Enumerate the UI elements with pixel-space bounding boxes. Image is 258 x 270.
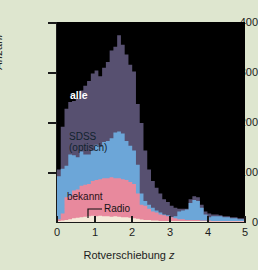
x-tick-mark-0 [56,216,58,223]
x-tick-label-5: 5 [235,226,255,238]
x-axis-label-text: Rotverschiebung [83,249,169,261]
redshift-histogram-figure: Anzahl 400 300 200 100 0 alle SDSS (opti… [0,0,258,270]
x-tick-mark-1 [94,216,96,223]
annotation-sdss: SDSS (optisch) [69,131,107,153]
x-tick-label-1: 1 [85,226,105,238]
annotation-radio: Radio [104,203,130,214]
x-axis-symbol: z [169,249,175,261]
x-axis-line [56,222,246,223]
x-tick-label-3: 3 [160,226,180,238]
x-tick-mark-3 [169,216,171,223]
annotation-alle: alle [70,89,88,101]
y-axis-label: Anzahl [0,12,4,92]
annotation-bekannt: bekannt [67,191,103,202]
x-tick-mark-4 [207,216,209,223]
annotation-sdss-line2: (optisch) [69,142,107,153]
annotation-sdss-line1: SDSS [69,131,96,142]
x-tick-label-2: 2 [122,226,142,238]
x-tick-label-4: 4 [198,226,218,238]
x-tick-mark-5 [244,216,246,223]
x-tick-label-0: 0 [47,226,67,238]
x-axis-label: Rotverschiebung z [0,249,258,261]
x-tick-mark-2 [131,216,133,223]
